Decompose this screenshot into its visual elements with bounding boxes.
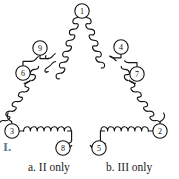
question-roman-label: I. <box>3 140 11 154</box>
node-label-9: 9 <box>38 44 42 53</box>
node-6[interactable]: 6 <box>16 66 30 80</box>
coil-bottom-right-5-to-2 <box>100 127 152 147</box>
node-label-4: 4 <box>119 43 123 52</box>
coil-triangle-diagram: 1 2 3 4 5 6 7 8 <box>0 0 179 179</box>
node-label-5: 5 <box>97 144 101 153</box>
node-5[interactable]: 5 <box>92 141 106 155</box>
answer-choice-a[interactable]: a. II only <box>28 160 70 174</box>
node-4[interactable]: 4 <box>114 40 128 54</box>
node-7[interactable]: 7 <box>130 67 144 81</box>
node-8[interactable]: 8 <box>56 141 70 155</box>
node-9[interactable]: 9 <box>33 41 47 55</box>
node-label-3: 3 <box>10 127 14 136</box>
node-3[interactable]: 3 <box>5 124 19 138</box>
node-label-2: 2 <box>158 127 162 136</box>
figure-root: 1 2 3 4 5 6 7 8 <box>0 0 179 179</box>
answer-choice-b[interactable]: b. III only <box>106 160 152 174</box>
node-label-7: 7 <box>135 70 139 79</box>
node-1[interactable]: 1 <box>75 4 89 18</box>
node-2[interactable]: 2 <box>153 124 167 138</box>
answer-choices-row: a. II only b. III only <box>0 160 179 178</box>
node-label-1: 1 <box>80 7 84 16</box>
node-label-8: 8 <box>61 144 65 153</box>
node-label-6: 6 <box>21 69 25 78</box>
